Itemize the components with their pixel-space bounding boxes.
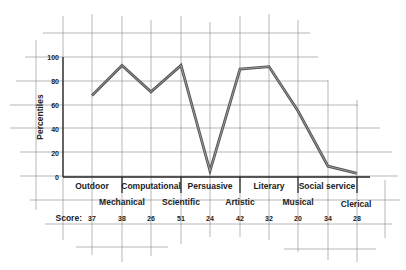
score-literary: 32	[265, 215, 273, 222]
percentile-line	[92, 65, 357, 173]
y-tick-20: 20	[51, 150, 59, 157]
category-labels-row2: Mechanical Scientific Artistic Musical C…	[99, 197, 371, 209]
category-labels-row1: Outdoor Computational Persuasive Literar…	[75, 181, 355, 191]
score-artistic: 42	[236, 215, 244, 222]
score-computational: 26	[147, 215, 155, 222]
score-clerical: 28	[353, 215, 361, 222]
category-clerical: Clerical	[341, 199, 372, 209]
y-tick-80: 80	[51, 78, 59, 85]
score-outdoor: 37	[88, 215, 96, 222]
category-literary: Literary	[253, 181, 284, 191]
score-label: Score:	[56, 213, 83, 223]
category-artistic: Artistic	[225, 197, 255, 207]
score-musical: 20	[294, 215, 302, 222]
interest-profile-chart: 0 20 40 60 80 100 Percentiles Outdoor Co…	[0, 0, 406, 270]
y-tick-60: 60	[51, 102, 59, 109]
score-persuasive: 24	[206, 215, 214, 222]
category-social-service: Social service	[299, 181, 356, 191]
y-tick-100: 100	[47, 54, 59, 61]
y-axis-label: Percentiles	[35, 94, 45, 140]
category-mechanical: Mechanical	[99, 197, 145, 207]
category-persuasive: Persuasive	[188, 181, 233, 191]
scores-row: Score: 37 38 26 51 24 42 32 20 34 28	[56, 213, 361, 223]
score-social-service: 34	[324, 215, 332, 222]
y-tick-0: 0	[55, 174, 59, 181]
category-outdoor: Outdoor	[75, 181, 109, 191]
category-computational: Computational	[121, 181, 181, 191]
score-scientific: 51	[177, 215, 185, 222]
category-scientific: Scientific	[162, 197, 200, 207]
grid-lines	[10, 14, 400, 262]
y-tick-labels: 0 20 40 60 80 100	[47, 54, 59, 181]
category-musical: Musical	[282, 197, 313, 207]
score-mechanical: 38	[118, 215, 126, 222]
y-tick-40: 40	[51, 126, 59, 133]
